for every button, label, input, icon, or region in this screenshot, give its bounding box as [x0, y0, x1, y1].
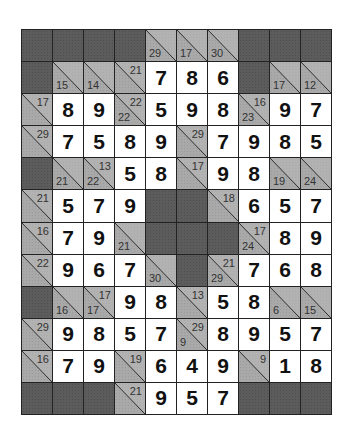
clue-cell: 24	[301, 158, 331, 189]
clue-cell: 9	[239, 351, 269, 382]
entry-cell[interactable]: 5	[270, 190, 300, 221]
entry-cell[interactable]: 6	[146, 351, 176, 382]
entry-cell[interactable]: 8	[146, 287, 176, 318]
entry-cell[interactable]: 9	[301, 223, 331, 254]
entry-cell[interactable]: 4	[177, 351, 207, 382]
down-clue: 17	[180, 48, 192, 59]
entry-cell[interactable]: 9	[239, 319, 269, 350]
down-clue: 14	[87, 80, 99, 91]
entry-cell[interactable]: 5	[177, 383, 207, 414]
blocked-cell	[53, 383, 83, 414]
blocked-cell	[239, 383, 269, 414]
entry-cell[interactable]: 7	[301, 94, 331, 125]
entry-cell[interactable]: 8	[239, 287, 269, 318]
entry-cell[interactable]: 6	[270, 255, 300, 286]
clue-cell: 17	[177, 158, 207, 189]
blocked-cell	[22, 383, 52, 414]
entry-cell[interactable]: 1	[270, 351, 300, 382]
entry-cell[interactable]: 9	[146, 383, 176, 414]
entry-cell[interactable]: 9	[208, 351, 238, 382]
blocked-cell	[22, 158, 52, 189]
entry-cell[interactable]: 8	[146, 158, 176, 189]
clue-cell: 18	[208, 190, 238, 221]
entry-cell[interactable]: 9	[53, 319, 83, 350]
blocked-cell	[22, 287, 52, 318]
entry-cell[interactable]: 6	[239, 190, 269, 221]
entry-cell[interactable]: 9	[84, 223, 114, 254]
blocked-cell	[239, 62, 269, 93]
across-clue: 13	[192, 290, 204, 301]
entry-cell[interactable]: 8	[115, 126, 145, 157]
entry-cell[interactable]: 5	[84, 126, 114, 157]
clue-cell: 29	[22, 319, 52, 350]
entry-cell[interactable]: 7	[53, 126, 83, 157]
entry-cell[interactable]: 7	[53, 351, 83, 382]
entry-cell[interactable]: 7	[239, 255, 269, 286]
entry-cell[interactable]: 9	[177, 94, 207, 125]
down-clue: 9	[180, 337, 186, 348]
entry-cell[interactable]: 9	[84, 351, 114, 382]
entry-cell[interactable]: 9	[84, 94, 114, 125]
clue-cell: 17	[177, 30, 207, 61]
entry-cell[interactable]: 5	[115, 319, 145, 350]
entry-cell[interactable]: 9	[270, 94, 300, 125]
entry-cell[interactable]: 8	[270, 223, 300, 254]
entry-cell[interactable]: 5	[115, 158, 145, 189]
across-clue: 22	[37, 258, 49, 269]
entry-cell[interactable]: 5	[301, 126, 331, 157]
clue-cell: 17	[22, 94, 52, 125]
down-clue: 22	[87, 176, 99, 187]
down-clue: 24	[304, 176, 316, 187]
clue-cell: 13	[177, 287, 207, 318]
entry-cell[interactable]: 8	[208, 94, 238, 125]
entry-cell[interactable]: 9	[146, 126, 176, 157]
entry-cell[interactable]: 5	[208, 287, 238, 318]
blocked-cell	[177, 255, 207, 286]
entry-cell[interactable]: 7	[84, 190, 114, 221]
entry-cell[interactable]: 7	[208, 126, 238, 157]
across-clue: 13	[99, 161, 111, 172]
entry-cell[interactable]: 9	[239, 126, 269, 157]
entry-cell[interactable]: 8	[177, 62, 207, 93]
entry-cell[interactable]: 9	[115, 190, 145, 221]
entry-cell[interactable]: 5	[146, 94, 176, 125]
entry-cell[interactable]: 8	[239, 158, 269, 189]
entry-cell[interactable]: 9	[53, 255, 83, 286]
entry-cell[interactable]: 5	[270, 319, 300, 350]
clue-cell: 16	[53, 287, 83, 318]
entry-cell[interactable]: 6	[84, 255, 114, 286]
across-clue: 17	[37, 97, 49, 108]
entry-cell[interactable]: 8	[84, 319, 114, 350]
clue-cell: 2921	[208, 255, 238, 286]
clue-cell: 21	[115, 62, 145, 93]
across-clue: 17	[99, 290, 111, 301]
entry-cell[interactable]: 6	[208, 62, 238, 93]
entry-cell[interactable]: 8	[208, 319, 238, 350]
entry-cell[interactable]: 8	[270, 126, 300, 157]
down-clue: 6	[273, 305, 279, 316]
entry-cell[interactable]: 5	[53, 190, 83, 221]
down-clue: 15	[56, 80, 68, 91]
across-clue: 16	[37, 226, 49, 237]
entry-cell[interactable]: 7	[146, 319, 176, 350]
down-clue: 30	[211, 48, 223, 59]
entry-cell[interactable]: 9	[208, 158, 238, 189]
clue-cell: 17	[270, 62, 300, 93]
down-clue: 17	[87, 305, 99, 316]
entry-cell[interactable]: 9	[115, 287, 145, 318]
clue-cell: 30	[208, 30, 238, 61]
across-clue: 21	[130, 65, 142, 76]
entry-cell[interactable]: 7	[301, 319, 331, 350]
entry-cell[interactable]: 7	[301, 190, 331, 221]
entry-cell[interactable]: 8	[53, 94, 83, 125]
blocked-cell	[270, 30, 300, 61]
entry-cell[interactable]: 7	[208, 383, 238, 414]
entry-cell[interactable]: 7	[146, 62, 176, 93]
entry-cell[interactable]: 7	[53, 223, 83, 254]
across-clue: 21	[130, 386, 142, 397]
entry-cell[interactable]: 8	[301, 255, 331, 286]
entry-cell[interactable]: 7	[115, 255, 145, 286]
clue-cell: 21	[115, 383, 145, 414]
entry-cell[interactable]: 8	[301, 351, 331, 382]
clue-cell: 14	[84, 62, 114, 93]
